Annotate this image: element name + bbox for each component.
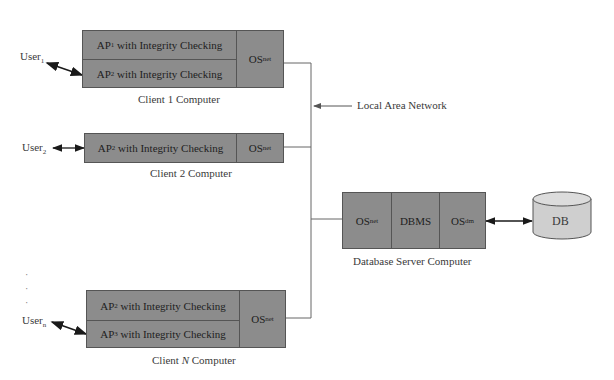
client1-label: Client 1 Computer (138, 93, 220, 105)
client2-app1: AP2 with Integrity Checking (85, 134, 236, 162)
server-dbms: DBMS (391, 193, 439, 248)
ellipsis-dots: ··· (25, 268, 28, 310)
client1-computer-box: AP1 with Integrity Checking AP2 with Int… (82, 30, 284, 88)
server-label: Database Server Computer (353, 255, 472, 267)
user1-arrow (47, 63, 82, 75)
client2-label: Client 2 Computer (150, 167, 232, 179)
client2-os: OSnet (236, 134, 283, 162)
server-os-net: OSnet (343, 193, 391, 248)
clientn-computer-box: AP2 with Integrity Checking AP3 with Int… (86, 290, 286, 348)
clientn-os: OSnet (239, 291, 285, 347)
clientn-app1: AP2 with Integrity Checking (87, 291, 239, 320)
database-server-box: OSnet DBMS OSdm (342, 192, 486, 249)
usern-label: Usern (22, 314, 46, 329)
lan-bus-line (284, 63, 311, 318)
db-label: DB (552, 214, 569, 229)
client1-app1: AP1 with Integrity Checking (83, 31, 236, 59)
usern-arrow (52, 322, 86, 334)
clientn-app2: AP3 with Integrity Checking (87, 320, 239, 347)
client2-computer-box: AP2 with Integrity Checking OSnet (84, 133, 284, 163)
lan-label: Local Area Network (357, 99, 447, 111)
server-os-dm: OSdm (439, 193, 485, 248)
clientn-label: Client N Computer (152, 354, 236, 366)
user2-label: User2 (22, 141, 46, 156)
client1-app2: AP2 with Integrity Checking (83, 59, 236, 87)
client1-os: OSnet (236, 31, 283, 87)
user1-label: User1 (20, 50, 44, 65)
